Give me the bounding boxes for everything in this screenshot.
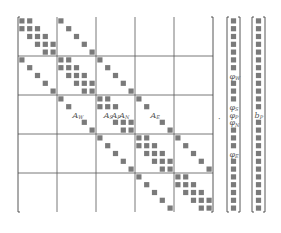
matrix-nonzero-entry [66,73,71,78]
matrix-nonzero-entry [160,198,165,203]
matrix-nonzero-entry [82,42,87,47]
matrix-nonzero-entry [160,167,165,172]
matrix-nonzero-entry [207,198,212,203]
matrix-nonzero-entry [152,190,157,195]
matrix-nonzero-entry [129,120,134,125]
matrix-nonzero-entry [175,135,180,140]
unknown-vector-entry [231,190,236,195]
unknown-vector: φWφSφPφNφE [227,17,241,212]
matrix-nonzero-entry [66,26,71,31]
matrix-nonzero-entry [191,190,196,195]
matrix-nonzero-entry [144,104,149,109]
unknown-vector-entry [231,167,236,172]
unknown-vector-entry [231,18,236,23]
unknown-vector-entry [231,182,236,187]
matrix-nonzero-entry [27,34,32,39]
unknown-vector-label-n: φN [230,118,241,128]
matrix-nonzero-entry [199,206,204,211]
matrix-nonzero-entry [90,128,95,133]
matrix-nonzero-entry [183,182,188,187]
matrix-nonzero-entry [90,89,95,94]
rhs-vector-entry [256,81,261,86]
unknown-vector-entry [231,89,236,94]
unknown-vector-entry [231,206,236,211]
matrix-nonzero-entry [35,73,40,78]
rhs-vector-entry [256,167,261,172]
matrix-nonzero-entry [51,42,56,47]
rhs-vector-entry [256,73,261,78]
matrix-nonzero-entry [43,34,48,39]
matrix-nonzero-entry [144,143,149,148]
rhs-vector: bP [252,17,265,212]
rhs-vector-right-bracket [263,17,265,212]
matrix-nonzero-entry [144,135,149,140]
multiply-operator: · [218,115,221,124]
unknown-vector-entry [231,135,236,140]
matrix-nonzero-entry [207,167,212,172]
matrix-nonzero-entry [129,167,134,172]
unknown-vector-entry [231,42,236,47]
matrix-nonzero-entry [90,50,95,55]
unknown-vector-entry [231,159,236,164]
matrix-nonzero-entry [199,190,204,195]
matrix-nonzero-entry [74,34,79,39]
matrix-nonzero-entry [168,167,173,172]
matrix-nonzero-entry [105,104,110,109]
matrix-nonzero-entry [113,73,118,78]
matrix-coefficient-label-e: AE [150,111,161,121]
rhs-vector-entry [256,89,261,94]
matrix-coefficient-label-w: AW [72,111,85,121]
matrix-nonzero-entry [152,151,157,156]
matrix-nonzero-entry [19,26,24,31]
coefficient-matrix: AWASAPANAE [18,17,213,212]
rhs-vector-entry [256,104,261,109]
matrix-nonzero-entry [160,120,165,125]
matrix-right-bracket [211,17,213,212]
rhs-vector-entry [256,135,261,140]
matrix-nonzero-entry [74,81,79,86]
rhs-vector-entry [256,65,261,70]
matrix-nonzero-entry [136,96,141,101]
rhs-vector-entry [256,151,261,156]
matrix-nonzero-entry [82,120,87,125]
matrix-nonzero-entry [51,50,56,55]
matrix-nonzero-entry [175,174,180,179]
matrix-nonzero-entry [82,89,87,94]
matrix-nonzero-entry [152,143,157,148]
matrix-left-bracket [18,17,20,212]
matrix-nonzero-entry [74,65,79,70]
matrix-nonzero-entry [90,81,95,86]
matrix-nonzero-entry [168,128,173,133]
matrix-nonzero-entry [35,26,40,31]
rhs-vector-entry [256,96,261,101]
matrix-nonzero-entry [152,159,157,164]
matrix-nonzero-entry [175,182,180,187]
rhs-vector-entry [256,143,261,148]
matrix-nonzero-entry [199,198,204,203]
matrix-nonzero-entry [168,159,173,164]
rhs-vector-entry [256,18,261,23]
matrix-nonzero-entry [58,57,63,62]
matrix-nonzero-entry [19,57,24,62]
matrix-nonzero-entry [160,159,165,164]
rhs-vector-entry [256,174,261,179]
matrix-nonzero-entry [121,159,126,164]
unknown-vector-entry [231,50,236,55]
rhs-vector-entry [256,182,261,187]
unknown-vector-entry [231,65,236,70]
rhs-vector-entry [256,34,261,39]
matrix-nonzero-entry [121,128,126,133]
rhs-vector-entry [256,190,261,195]
matrix-nonzero-entry [183,174,188,179]
rhs-vector-entry [256,120,261,125]
matrix-nonzero-entry [144,182,149,187]
matrix-nonzero-entry [74,73,79,78]
matrix-nonzero-entry [199,159,204,164]
unknown-vector-label-w: φW [230,72,242,82]
matrix-nonzero-entry [66,65,71,70]
matrix-nonzero-entry [97,57,102,62]
unknown-vector-entry [231,26,236,31]
matrix-nonzero-entry [82,81,87,86]
matrix-nonzero-entry [191,151,196,156]
rhs-vector-entry [256,206,261,211]
